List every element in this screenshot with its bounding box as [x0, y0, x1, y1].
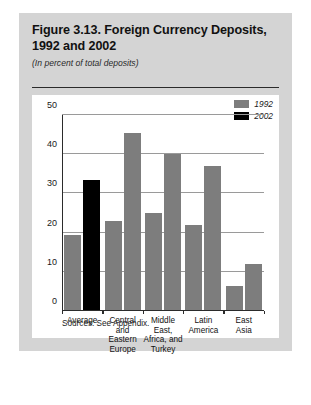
- y-axis-tick-label: 50: [47, 100, 57, 110]
- plot-area: 01020304050: [62, 115, 264, 311]
- y-axis-tick-label: 0: [52, 296, 57, 306]
- title-divider: [32, 87, 279, 88]
- x-tick: [103, 311, 104, 314]
- x-tick: [62, 311, 63, 314]
- bar-2002-4: [245, 264, 262, 311]
- x-tick: [224, 311, 225, 314]
- source-note: Sources: See Appendix.: [62, 319, 149, 328]
- x-axis-category-label: Latin America: [188, 316, 218, 335]
- bar-2002-3: [204, 166, 221, 311]
- bar-1992-2: [145, 213, 162, 311]
- x-tick: [183, 311, 184, 314]
- chart-card: 1992 2002 01020304050 AverageCentral and…: [32, 95, 279, 338]
- bar-2002-0: [83, 180, 100, 311]
- gridline: [62, 153, 264, 154]
- bar-2002-1: [124, 133, 141, 311]
- figure-subtitle: (In percent of total deposits): [32, 58, 280, 68]
- x-axis: [62, 310, 264, 311]
- figure-panel: Figure 3.13. Foreign Currency Deposits, …: [19, 13, 292, 351]
- page-title: Figure 3.13. Foreign Currency Deposits, …: [32, 23, 280, 54]
- bar-1992-3: [185, 225, 202, 311]
- bar-1992-1: [105, 221, 122, 311]
- x-axis-category-label: East Asia: [236, 316, 252, 335]
- bar-2002-2: [164, 154, 181, 311]
- legend-item-1992: 1992: [234, 99, 273, 109]
- title-block: Figure 3.13. Foreign Currency Deposits, …: [32, 23, 280, 68]
- y-axis-tick-label: 20: [47, 218, 57, 228]
- bar-1992-0: [64, 235, 81, 311]
- y-axis: [62, 115, 63, 311]
- bar-1992-4: [226, 286, 243, 311]
- x-tick: [143, 311, 144, 314]
- y-axis-tick-label: 30: [47, 178, 57, 188]
- gridline: [62, 114, 264, 115]
- y-axis-tick-label: 40: [47, 139, 57, 149]
- legend-label-1992: 1992: [254, 99, 273, 109]
- x-tick: [264, 311, 265, 314]
- legend-swatch-1992: [234, 100, 249, 108]
- y-axis-tick-label: 10: [47, 257, 57, 267]
